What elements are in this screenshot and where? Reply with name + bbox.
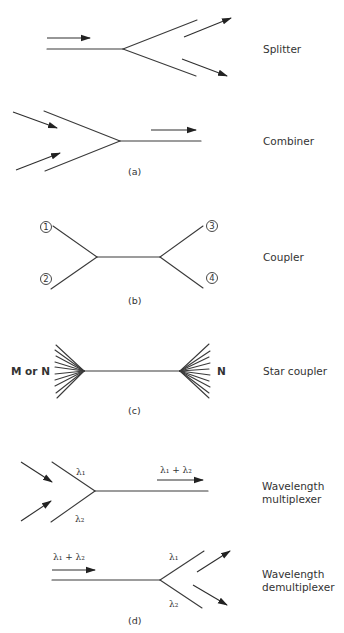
caption-c: (c) [128,405,141,416]
lambda2-label: λ₂ [75,514,85,524]
lambda1-label: λ₁ [76,467,85,477]
right-port-count-label: N [217,365,226,377]
lambda1-branch [160,551,204,580]
caption-b: (b) [128,295,141,306]
lambda1-label: λ₁ [169,552,178,562]
port-1-marker: 1 [41,222,52,233]
output-arrow-icon [193,585,227,605]
caption-a: (a) [128,166,141,177]
multiplexer-label-line1: Wavelength [262,480,324,492]
lambda1-branch [52,462,95,491]
output-arrow-icon [184,18,231,37]
input-arrow-icon [13,112,57,128]
fiber-optic-components-figure: Splitter Combiner (a) 1 2 3 4 [0,0,344,633]
wavelength-demultiplexer-diagram: λ₁ + λ₂ λ₁ λ₂ Wavelength demultiplexer [52,551,335,609]
port-1-fiber [53,226,97,257]
port-4-marker: 4 [207,273,218,284]
right-fiber-fan [180,344,210,398]
coupler-diagram: 1 2 3 4 Coupler [41,221,305,290]
input-arrow-icon [21,501,51,521]
star-coupler-label: Star coupler [263,365,328,377]
output-arrow-icon [197,551,230,572]
upper-branch [44,111,120,141]
demultiplexer-label-line1: Wavelength [262,568,324,580]
port-2-fiber [51,257,97,289]
demultiplexer-label-line2: demultiplexer [262,581,335,593]
combiner-label: Combiner [263,135,315,147]
multiplexer-label-line2: multiplexer [262,493,322,505]
caption-d: (d) [128,615,141,626]
input-wavelengths-label: λ₁ + λ₂ [53,552,85,562]
port-3-fiber [160,226,203,257]
port-2-marker: 2 [41,274,52,285]
splitter-label: Splitter [263,43,302,55]
svg-text:2: 2 [43,274,48,284]
svg-text:1: 1 [43,222,48,232]
input-arrow-icon [21,462,52,482]
lambda2-branch [51,491,95,522]
splitter-diagram: Splitter [47,18,302,76]
output-wavelengths-label: λ₁ + λ₂ [160,465,192,475]
left-fiber-fan [55,345,84,398]
star-coupler-diagram: M or N N Star coupler [11,344,328,398]
svg-text:3: 3 [209,221,214,231]
lower-branch [123,49,196,76]
lower-branch [45,141,120,171]
port-4-fiber [160,257,203,288]
left-port-count-label: M or N [11,365,50,377]
lambda2-label: λ₂ [169,599,179,609]
coupler-label: Coupler [263,251,304,263]
svg-text:4: 4 [209,273,214,283]
wavelength-multiplexer-diagram: λ₁ λ₂ λ₁ + λ₂ Wavelength multiplexer [21,462,324,524]
lambda2-branch [160,580,202,608]
port-3-marker: 3 [207,221,218,232]
upper-branch [123,20,197,49]
combiner-diagram: Combiner [13,111,315,171]
